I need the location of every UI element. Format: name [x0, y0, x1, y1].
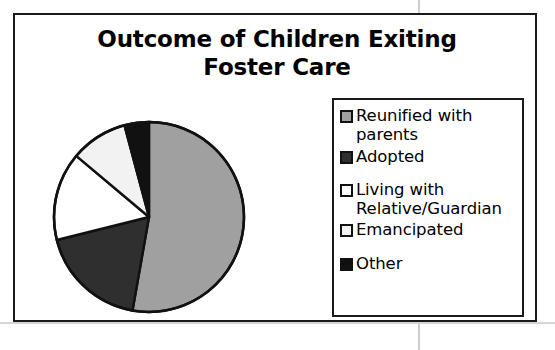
- chart-frame: Outcome of Children Exiting Foster Care …: [13, 13, 537, 322]
- legend-item-label: Emancipated: [356, 220, 463, 239]
- page-title: Outcome of Children Exiting Foster Care: [15, 25, 539, 81]
- legend-item[interactable]: Other: [340, 254, 518, 273]
- legend-item-label: Living with Relative/Guardian: [356, 180, 502, 219]
- page-guide-line-horizontal: [0, 322, 555, 324]
- chart-legend: Reunified with parentsAdoptedLiving with…: [332, 98, 524, 317]
- legend-item[interactable]: Living with Relative/Guardian: [340, 180, 518, 219]
- legend-item-label: Adopted: [356, 147, 424, 166]
- legend-item[interactable]: Reunified with parents: [340, 106, 518, 145]
- legend-item[interactable]: Emancipated: [340, 220, 518, 239]
- page-title-line-1: Outcome of Children Exiting: [15, 25, 539, 53]
- legend-swatch-adopted: [340, 151, 353, 164]
- legend-item[interactable]: Adopted: [340, 147, 518, 166]
- legend-swatch-other: [340, 258, 353, 271]
- legend-swatch-emancipated: [340, 224, 353, 237]
- legend-swatch-reunified: [340, 110, 353, 123]
- legend-swatch-relative: [340, 184, 353, 197]
- legend-item-label: Other: [356, 254, 402, 273]
- pie-chart: [51, 119, 247, 315]
- legend-item-label: Reunified with parents: [356, 106, 472, 145]
- pie-chart-svg: [51, 119, 247, 315]
- page-title-line-2: Foster Care: [15, 53, 539, 81]
- legend-item-list: Reunified with parentsAdoptedLiving with…: [340, 106, 518, 273]
